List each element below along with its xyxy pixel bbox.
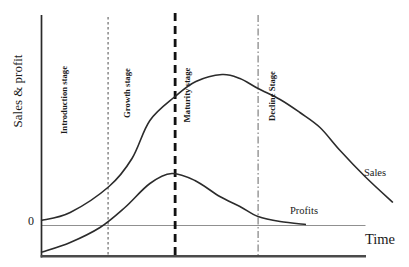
stage-label-2: Maturity stage bbox=[182, 67, 192, 122]
stage-label-0: Introduction stage bbox=[59, 66, 69, 134]
zero-tick-label: 0 bbox=[28, 214, 34, 228]
y-axis-label: Sales & profit bbox=[10, 54, 25, 127]
stage-label-3: Decline Stage bbox=[267, 71, 277, 121]
sales-curve bbox=[41, 74, 393, 220]
product-lifecycle-figure: Introduction stageGrowth stageMaturity s… bbox=[0, 0, 409, 267]
x-axis-label: Time bbox=[365, 231, 395, 247]
lifecycle-chart: Introduction stageGrowth stageMaturity s… bbox=[0, 0, 409, 267]
profits-curve bbox=[41, 173, 306, 252]
sales-curve-label: Sales bbox=[364, 167, 386, 178]
profits-curve-label: Profits bbox=[290, 205, 318, 216]
stage-label-1: Growth stage bbox=[122, 68, 132, 118]
